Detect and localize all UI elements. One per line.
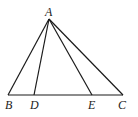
label-e: E	[87, 98, 96, 112]
label-c: C	[118, 98, 127, 112]
triangle-diagram: A B D E C	[0, 0, 138, 117]
label-a: A	[44, 5, 53, 19]
label-d: D	[29, 98, 39, 112]
label-b: B	[5, 98, 13, 112]
segment-ab	[8, 19, 49, 95]
segment-ad	[34, 19, 49, 95]
